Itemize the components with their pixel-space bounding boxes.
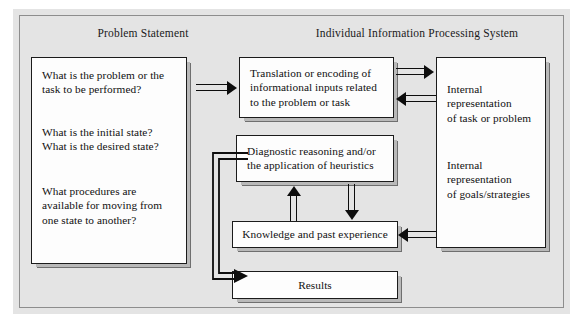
translation-text: Translation or encoding of informational… <box>250 66 377 109</box>
internal-task-line-1: Internal <box>447 82 531 96</box>
internal-task-line-3: of task or problem <box>447 111 531 125</box>
problem-question-3-line-2: available for moving from <box>42 198 162 212</box>
diagram-figure: Problem Statement Individual Information… <box>0 0 586 334</box>
internal-goals-line-3: of goals/strategies <box>447 187 530 201</box>
section-title-individual-information-processing-system: Individual Information Processing System <box>272 27 562 39</box>
diagnostic-line-2: the application of heuristics <box>247 158 376 172</box>
arrow-knowledge-to-diagnostic-icon <box>290 186 297 221</box>
internal-goals-line-2: representation <box>447 172 530 186</box>
box-internal-representation: Internal representation of task or probl… <box>436 57 546 248</box>
problem-question-1-line-2: task to be performed? <box>42 82 164 96</box>
problem-question-3-line-3: one state to another? <box>42 213 162 227</box>
arrow-head-left <box>398 228 408 242</box>
arrow-head-right <box>424 65 434 79</box>
arrow-shaft <box>196 84 229 91</box>
translation-line-2: informational inputs related <box>250 80 377 94</box>
internal-task-line-2: representation <box>447 96 531 110</box>
arrow-internal-representation-to-knowledge-icon <box>398 231 436 238</box>
problem-question-3: What procedures are available for moving… <box>42 184 162 227</box>
arrow-head-left <box>396 92 406 106</box>
arrow-problem-statement-to-translation-icon <box>196 84 239 91</box>
arrow-shaft <box>348 184 355 212</box>
arrow-shaft <box>290 194 297 221</box>
box-knowledge-past-experience: Knowledge and past experience <box>232 221 398 248</box>
internal-representation-goals: Internal representation of goals/strateg… <box>447 158 530 201</box>
box-translation-encoding: Translation or encoding of informational… <box>239 57 394 118</box>
results-text: Results <box>233 278 397 292</box>
translation-line-3: to the problem or task <box>250 95 377 109</box>
problem-question-1: What is the problem or the task to be pe… <box>42 68 164 97</box>
arrow-head-down <box>345 210 359 220</box>
problem-question-3-line-1: What procedures are <box>42 184 162 198</box>
arrow-translation-to-internal-representation-icon <box>396 68 436 75</box>
arrow-diagnostic-to-results-icon <box>208 150 248 285</box>
problem-question-1-line-1: What is the problem or the <box>42 68 164 82</box>
problem-question-2-line-2: What is the desired state? <box>42 139 159 153</box>
translation-line-1: Translation or encoding of <box>250 66 377 80</box>
arrow-internal-representation-to-translation-icon <box>396 95 436 102</box>
internal-goals-line-1: Internal <box>447 158 530 172</box>
problem-question-2-line-1: What is the initial state? <box>42 125 159 139</box>
arrow-diagnostic-to-knowledge-icon <box>348 184 355 220</box>
diagnostic-line-1: Diagnostic reasoning and/or <box>247 144 376 158</box>
internal-representation-task: Internal representation of task or probl… <box>447 82 531 125</box>
arrow-head-right <box>227 81 237 95</box>
knowledge-text: Knowledge and past experience <box>233 227 397 241</box>
box-results: Results <box>232 271 398 299</box>
box-problem-statement: What is the problem or the task to be pe… <box>31 57 187 264</box>
diagnostic-text: Diagnostic reasoning and/or the applicat… <box>247 144 376 173</box>
arrow-head-up <box>287 186 301 196</box>
arrow-shaft <box>396 68 426 75</box>
section-title-problem-statement: Problem Statement <box>58 27 228 39</box>
problem-question-2: What is the initial state? What is the d… <box>42 125 159 154</box>
arrow-shaft <box>407 231 436 238</box>
arrow-shaft <box>405 95 436 102</box>
box-diagnostic-reasoning: Diagnostic reasoning and/or the applicat… <box>236 135 394 182</box>
